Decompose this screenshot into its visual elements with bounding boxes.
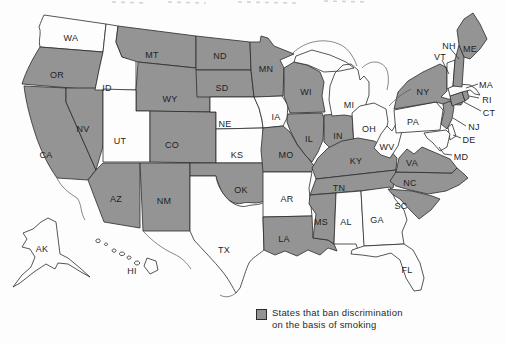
state-label-nj: NJ [468, 122, 480, 132]
state-label-fl: FL [401, 265, 412, 275]
state-label-ks: KS [231, 150, 244, 160]
state-label-nh: NH [442, 41, 456, 51]
state-label-ok: OK [234, 185, 248, 195]
state-label-ma: MA [479, 80, 493, 90]
callout-line-nj [453, 118, 466, 126]
state-label-ia: IA [271, 112, 280, 122]
smoking-discrimination-map-figure: WAORCANVIDMTWYUTCOAZNMNDSDNEKSOKTXMNIAMO… [0, 0, 506, 343]
state-label-mn: MN [259, 64, 274, 74]
state-label-pa: PA [407, 117, 419, 127]
cropped-caption-artifact [112, 1, 368, 3]
state-label-sc: SC [394, 201, 407, 211]
legend-swatch [256, 309, 267, 320]
state-label-tx: TX [218, 245, 230, 255]
state-label-md: MD [454, 152, 469, 162]
state-label-tn: TN [333, 183, 346, 193]
state-label-va: VA [406, 158, 418, 168]
mexico-gulf-coastline [220, 293, 236, 297]
legend-label-line2: on the basis of smoking [272, 319, 403, 331]
legend: States that ban discrimination on the ba… [256, 307, 403, 330]
state-label-ri: RI [482, 95, 492, 105]
legend-label: States that ban discrimination on the ba… [272, 307, 403, 330]
state-label-mt: MT [145, 50, 159, 60]
state-label-oh: OH [362, 124, 376, 134]
state-label-hi: HI [127, 266, 137, 276]
state-label-wv: WV [379, 142, 394, 152]
state-label-co: CO [165, 140, 179, 150]
state-label-al: AL [340, 217, 352, 227]
state-label-mi: MI [344, 100, 355, 110]
state-label-ga: GA [370, 215, 384, 225]
state-label-de: DE [462, 135, 475, 145]
legend-label-line1: States that ban discrimination [272, 307, 403, 319]
state-label-ak: AK [36, 244, 49, 254]
state-label-ky: KY [350, 156, 363, 166]
state-label-vt: VT [434, 52, 446, 62]
state-label-ny: NY [416, 87, 429, 97]
state-label-wi: WI [300, 87, 312, 97]
state-or [22, 47, 103, 90]
state-label-la: LA [278, 234, 290, 244]
state-label-ar: AR [280, 194, 293, 204]
state-label-ms: MS [314, 217, 328, 227]
state-label-nc: NC [403, 178, 417, 188]
state-label-nv: NV [76, 124, 89, 134]
state-label-or: OR [50, 70, 64, 80]
us-map: WAORCANVIDMTWYUTCOAZNMNDSDNEKSOKTXMNIAMO… [0, 0, 506, 343]
state-label-sd: SD [215, 83, 228, 93]
state-label-nd: ND [213, 51, 227, 61]
state-label-ne: NE [218, 119, 231, 129]
state-label-ct: CT [483, 108, 496, 118]
state-label-az: AZ [110, 194, 122, 204]
state-md [424, 130, 450, 151]
state-label-mo: MO [278, 150, 293, 160]
callout-line-ct [464, 102, 481, 111]
state-label-wy: WY [162, 94, 177, 104]
state-label-in: IN [333, 131, 343, 141]
state-co [150, 111, 216, 163]
callout-line-ri [469, 96, 479, 98]
state-label-nm: NM [157, 196, 172, 206]
state-ak [13, 218, 90, 287]
state-label-id: ID [102, 83, 112, 93]
state-fl [351, 244, 424, 291]
state-label-ca: CA [39, 150, 52, 160]
state-label-ut: UT [114, 136, 127, 146]
state-label-me: ME [463, 44, 477, 54]
state-label-il: IL [305, 134, 313, 144]
state-label-wa: WA [64, 33, 79, 43]
mexico-baja-coastline [57, 178, 85, 220]
